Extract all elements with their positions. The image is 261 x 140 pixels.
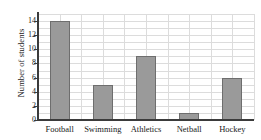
x-axis-label-athletics: Athletics bbox=[124, 123, 167, 135]
y-axis-line bbox=[37, 12, 39, 120]
y-axis-tick-mark bbox=[34, 106, 38, 107]
y-axis-tick-labels: 02468101214 bbox=[18, 14, 36, 120]
gridline-vertical bbox=[189, 14, 190, 120]
bar-chart: Number of students 02468101214 FootballS… bbox=[0, 0, 261, 140]
x-axis-label-swimming: Swimming bbox=[81, 123, 124, 135]
gridline-vertical bbox=[81, 14, 82, 120]
y-axis-tick-mark bbox=[34, 35, 38, 36]
bar-hockey bbox=[222, 78, 242, 120]
plot-area bbox=[38, 14, 254, 120]
x-axis-category-labels: FootballSwimmingAthleticsNetballHockey bbox=[38, 123, 254, 139]
y-axis-tick-mark bbox=[34, 49, 38, 50]
gridline-vertical bbox=[124, 14, 125, 120]
x-axis-label-netball: Netball bbox=[168, 123, 211, 135]
y-axis-tick-mark bbox=[34, 21, 38, 22]
bar-swimming bbox=[93, 85, 113, 120]
y-axis-tick-mark bbox=[34, 78, 38, 79]
gridline-vertical bbox=[168, 14, 169, 120]
y-axis-tick-mark bbox=[34, 92, 38, 93]
gridline-vertical bbox=[254, 14, 255, 120]
y-axis-tick-mark bbox=[34, 120, 38, 121]
x-axis-label-football: Football bbox=[38, 123, 81, 135]
bar-athletics bbox=[136, 56, 156, 120]
y-axis-tick-mark bbox=[34, 63, 38, 64]
x-axis-label-hockey: Hockey bbox=[211, 123, 254, 135]
gridline-vertical bbox=[211, 14, 212, 120]
x-axis-line bbox=[37, 119, 254, 121]
bar-football bbox=[50, 21, 70, 120]
